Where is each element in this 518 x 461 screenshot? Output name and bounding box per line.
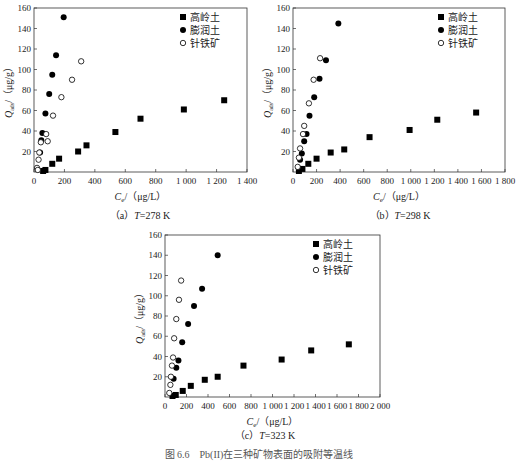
x-tick-label: 1 200 [424,176,445,186]
data-point [341,146,347,152]
data-point [43,131,48,136]
legend-label: 膨润土 [448,24,478,36]
y-tick-label: 20 [281,147,291,157]
data-point [301,123,306,128]
y-tick-label: 40 [153,352,163,362]
chart-panel-c: 02004006008001 0001 2001 4001 6001 8002 … [130,225,400,453]
y-tick-label: 60 [22,106,32,116]
data-point [56,156,62,162]
legend-label: 高岭土 [323,238,353,250]
scatter-plot-c: 02004006008001 0001 2001 4001 6001 8002 … [130,225,400,430]
y-tick-label: 120 [277,44,291,54]
data-point [35,167,40,172]
data-point [36,157,41,162]
data-point [180,388,186,394]
data-point [53,52,59,58]
data-point [61,14,67,20]
data-point [42,167,48,173]
y-tick-label: 100 [277,65,291,75]
y-tick-label: 40 [281,126,291,136]
legend-label: 膨润土 [190,24,220,36]
y-tick-label: 60 [153,331,163,341]
legend-marker [180,14,186,20]
legend-marker [313,267,318,272]
data-point [279,357,285,363]
x-tick-label: 1 600 [471,176,492,186]
data-point [300,131,305,136]
data-point [78,59,83,64]
x-tick-label: 800 [244,401,258,411]
data-point [434,117,440,123]
data-point [50,113,55,118]
panel-caption-c: （c）T=323 K [130,427,400,442]
y-tick-label: 120 [18,44,32,54]
y-axis-label: Qads/（μg/g） [3,62,15,118]
data-point [112,129,118,135]
y-tick-label: 140 [149,250,163,260]
data-point [45,139,50,144]
panel-caption-a: （a）T=278 K [0,207,280,222]
y-tick-label: 80 [22,85,32,95]
data-point [83,142,89,148]
x-tick-label: 800 [380,176,394,186]
y-tick-label: 20 [22,147,32,157]
x-tick-label: 1 400 [305,401,326,411]
data-point [46,91,52,97]
x-tick-label: 600 [119,176,133,186]
data-point [188,383,194,389]
legend-label: 针铁矿 [323,264,353,276]
x-tick-label: 200 [310,176,324,186]
x-tick-label: 200 [58,176,72,186]
x-tick-label: 800 [149,176,163,186]
data-point [308,347,314,353]
x-tick-label: 600 [357,176,371,186]
x-axis-label: Ce/（μg/L） [373,191,425,204]
data-point [49,72,55,78]
legend-label: 针铁矿 [448,37,478,49]
data-point [328,150,334,156]
data-point [170,355,175,360]
data-point [297,146,302,151]
x-tick-label: 600 [223,401,237,411]
data-point [171,336,176,341]
chart-panel-b: 02004006008001 0001 2001 4001 6001 80020… [260,0,518,230]
x-tick-label: 1 400 [237,176,258,186]
data-point [407,127,413,133]
x-tick-label: 0 [291,176,296,186]
scatter-plot-a: 02004006008001 0001 2001 400204060801001… [0,0,260,215]
legend-label: 针铁矿 [190,37,220,49]
data-point [168,382,173,387]
x-tick-label: 1 200 [284,401,305,411]
x-tick-label: 1 000 [401,176,422,186]
data-point [306,101,311,106]
data-point [75,149,81,155]
y-tick-label: 20 [153,372,163,382]
x-tick-label: 0 [32,176,37,186]
data-point [174,316,179,321]
data-point [185,321,191,327]
data-point [169,363,174,368]
x-tick-label: 400 [201,401,215,411]
data-point [311,77,316,82]
y-tick-label: 160 [18,3,32,13]
data-point [306,113,312,119]
x-tick-label: 1 800 [348,401,369,411]
data-point [176,297,181,302]
legend-marker [313,241,319,247]
data-point [69,77,74,82]
data-point [301,138,307,144]
legend-marker [313,254,319,260]
data-point [221,97,227,103]
legend-label: 高岭土 [448,11,478,23]
y-axis-label: Qads/（μg/g） [134,288,146,344]
y-tick-label: 100 [18,65,32,75]
panel-caption-b: （b）T=298 K [260,207,518,222]
data-point [323,57,329,63]
data-point [346,341,352,347]
data-point [199,286,205,292]
legend-marker [438,27,444,33]
y-tick-label: 160 [277,3,291,13]
y-tick-label: 140 [18,24,32,34]
y-tick-label: 140 [277,24,291,34]
data-point [168,374,173,379]
